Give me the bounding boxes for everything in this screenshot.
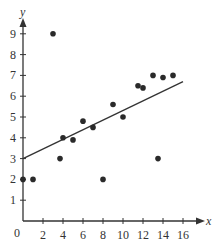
y-tick-label: 7 — [10, 68, 16, 82]
data-point — [140, 85, 146, 91]
scatter-chart: xy 0246810121416123456789 — [0, 0, 215, 251]
data-point — [155, 156, 161, 162]
x-axis-label: x — [205, 214, 212, 228]
data-point — [80, 118, 86, 124]
data-point — [30, 177, 36, 183]
data-point — [60, 135, 66, 141]
y-tick-label: 5 — [10, 110, 16, 124]
y-tick-label: 9 — [10, 27, 16, 41]
x-axis-arrow-icon — [196, 218, 205, 225]
y-tick-label: 3 — [10, 152, 16, 166]
x-tick-label: 4 — [60, 228, 66, 242]
trend-line — [23, 82, 183, 159]
regression-line — [23, 82, 183, 159]
y-tick-label: 8 — [10, 48, 16, 62]
data-point — [135, 83, 141, 89]
origin-label: 0 — [14, 226, 20, 240]
x-tick-label: 6 — [80, 228, 86, 242]
x-tick-label: 12 — [137, 228, 149, 242]
x-tick-label: 8 — [100, 228, 106, 242]
x-tick-label: 2 — [40, 228, 46, 242]
x-tick-label: 14 — [157, 228, 169, 242]
y-tick-label: 2 — [10, 172, 16, 186]
data-point — [120, 114, 126, 120]
data-point — [110, 102, 116, 108]
x-tick-label: 10 — [117, 228, 129, 242]
x-tick-label: 16 — [177, 228, 189, 242]
data-point — [170, 73, 176, 79]
axis-ticks: 0246810121416123456789 — [10, 27, 189, 242]
data-point — [20, 177, 26, 183]
y-axis-label: y — [19, 5, 26, 19]
data-point — [150, 73, 156, 79]
data-point — [100, 177, 106, 183]
data-point — [57, 156, 63, 162]
y-tick-label: 4 — [10, 131, 16, 145]
data-points — [20, 31, 176, 182]
data-point — [90, 125, 96, 131]
y-tick-label: 6 — [10, 89, 16, 103]
y-tick-label: 1 — [10, 193, 16, 207]
data-point — [50, 31, 56, 37]
y-axis-arrow-icon — [20, 18, 27, 27]
data-point — [70, 137, 76, 143]
data-point — [160, 75, 166, 81]
axes: xy — [19, 5, 212, 228]
